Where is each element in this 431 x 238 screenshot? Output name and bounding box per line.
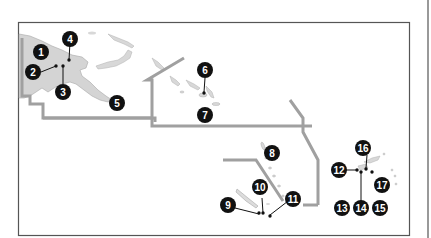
marker-3[interactable]: 3 (55, 84, 71, 100)
svg-text:9: 9 (225, 200, 231, 211)
marker-14[interactable]: 14 (353, 200, 369, 216)
svg-text:3: 3 (60, 87, 66, 98)
marker-8[interactable]: 8 (264, 145, 280, 161)
map: 1 2 3 4 5 6 7 8 9 10 11 12 (0, 0, 431, 238)
marker-4[interactable]: 4 (62, 31, 78, 47)
svg-text:12: 12 (333, 165, 345, 176)
marker-11[interactable]: 11 (285, 191, 301, 207)
svg-text:7: 7 (202, 110, 208, 121)
marker-1[interactable]: 1 (33, 44, 49, 60)
svg-text:11: 11 (288, 194, 299, 205)
svg-text:5: 5 (114, 98, 120, 109)
svg-text:6: 6 (202, 65, 208, 76)
map-frame (19, 23, 410, 236)
svg-text:15: 15 (374, 203, 386, 214)
svg-text:2: 2 (30, 67, 36, 78)
marker-6[interactable]: 6 (197, 62, 213, 78)
marker-5[interactable]: 5 (109, 95, 125, 111)
marker-15[interactable]: 15 (372, 200, 388, 216)
svg-text:4: 4 (67, 34, 73, 45)
marker-9[interactable]: 9 (220, 197, 236, 213)
svg-text:1: 1 (38, 47, 44, 58)
marker-12[interactable]: 12 (331, 162, 347, 178)
svg-text:13: 13 (336, 203, 348, 214)
marker-13[interactable]: 13 (334, 200, 350, 216)
svg-text:17: 17 (376, 180, 388, 191)
svg-text:16: 16 (357, 143, 369, 154)
svg-text:8: 8 (269, 148, 275, 159)
marker-2[interactable]: 2 (25, 64, 41, 80)
marker-17[interactable]: 17 (374, 177, 390, 193)
svg-text:10: 10 (254, 182, 266, 193)
svg-text:14: 14 (355, 203, 367, 214)
marker-16[interactable]: 16 (355, 140, 371, 156)
marker-10[interactable]: 10 (252, 179, 268, 195)
marker-7[interactable]: 7 (197, 107, 213, 123)
